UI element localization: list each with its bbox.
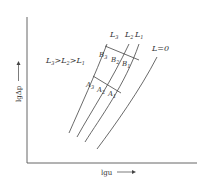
label-l0: L=0 — [151, 44, 169, 53]
label-a2: A2 — [96, 86, 105, 95]
label-l3: L3 — [109, 30, 119, 40]
y-axis-arrowhead-icon — [17, 61, 21, 65]
curve-l0 — [97, 57, 157, 149]
label-l1: L1 — [134, 30, 144, 40]
label-a1: A1 — [107, 90, 116, 99]
diagram-canvas: L3 L2 L1 L=0 B3 B2 B1 A3 A2 A1 L3>L2>L1 … — [0, 0, 212, 184]
x-axis-label: lgu — [101, 169, 136, 177]
label-a3: A3 — [85, 81, 94, 90]
svg-text:lgΔp: lgΔp — [15, 85, 23, 102]
label-l2: L2 — [124, 30, 134, 40]
y-axis-label: lgΔp — [15, 61, 23, 102]
relation-text: L3>L2>L1 — [45, 56, 85, 66]
svg-text:lgu: lgu — [101, 169, 113, 177]
label-b3: B3 — [98, 51, 107, 60]
label-b2: B2 — [110, 56, 119, 65]
x-axis-arrowhead-icon — [132, 170, 136, 174]
label-b1: B1 — [121, 60, 130, 69]
